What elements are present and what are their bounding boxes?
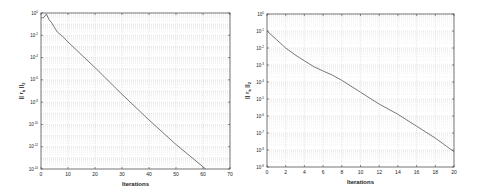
- y-tick-label: 100: [257, 11, 264, 17]
- x-tick-label: 16: [414, 169, 420, 175]
- y-tick-label: 100: [31, 10, 38, 16]
- y-axis-label: || rk ||2: [244, 81, 252, 99]
- x-tick-label: 4: [303, 169, 306, 175]
- x-tick-label: 18: [433, 169, 439, 175]
- right-chart: 02468101214161820Iterations10010-110-210…: [240, 0, 479, 194]
- x-tick-label: 60: [200, 171, 206, 177]
- y-tick-label: 10-2: [30, 32, 38, 38]
- y-tick-label: 10-12: [29, 143, 39, 149]
- x-tick-label: 50: [173, 171, 179, 177]
- y-tick-label: 10-6: [256, 113, 264, 119]
- right-plot-svg: 02468101214161820Iterations10010-110-210…: [240, 0, 479, 194]
- y-tick-label: 10-2: [256, 45, 264, 51]
- x-tick-label: 14: [395, 169, 401, 175]
- x-axis-label: Iterations: [347, 179, 375, 185]
- x-tick-label: 10: [65, 171, 71, 177]
- x-tick-label: 20: [92, 171, 98, 177]
- x-tick-label: 12: [376, 169, 382, 175]
- y-tick-label: 10-5: [256, 96, 264, 102]
- x-tick-label: 30: [119, 171, 125, 177]
- x-axis-label: Iterations: [122, 181, 150, 187]
- x-tick-label: 2: [284, 169, 287, 175]
- y-tick-label: 10-9: [256, 164, 264, 170]
- y-tick-label: 10-10: [29, 121, 39, 127]
- x-tick-label: 10: [358, 169, 364, 175]
- x-tick-label: 8: [340, 169, 343, 175]
- x-tick-label: 70: [227, 171, 233, 177]
- y-tick-label: 10-8: [256, 147, 264, 153]
- x-tick-label: 6: [322, 169, 325, 175]
- major-grid: [267, 14, 454, 167]
- y-tick-label: 10-14: [29, 166, 39, 172]
- y-tick-label: 10-8: [30, 99, 38, 105]
- left-chart: 010203040506070Iterations10010-210-410-6…: [0, 0, 240, 194]
- x-tick-label: 0: [40, 171, 43, 177]
- y-tick-label: 10-6: [30, 76, 38, 82]
- y-tick-label: 10-1: [256, 28, 264, 34]
- y-tick-label: 10-4: [30, 54, 38, 60]
- minor-grid: [41, 14, 230, 166]
- y-axis-label: || rk ||2: [18, 82, 26, 100]
- x-tick-label: 20: [451, 169, 457, 175]
- y-tick-label: 10-4: [256, 79, 264, 85]
- y-tick-label: 10-3: [256, 62, 264, 68]
- left-plot-svg: 010203040506070Iterations10010-210-410-6…: [0, 0, 240, 194]
- y-axis: 10010-110-210-310-410-510-610-710-810-9: [256, 11, 454, 170]
- y-tick-label: 10-7: [256, 130, 264, 136]
- x-tick-label: 40: [146, 171, 152, 177]
- x-tick-label: 0: [266, 169, 269, 175]
